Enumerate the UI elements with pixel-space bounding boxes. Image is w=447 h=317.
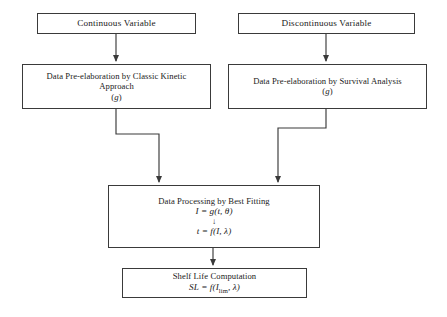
node-classic-kinetic-approach-line1: Data Pre-elaboration by Classic Kinetic [47, 71, 187, 81]
node-continuous-variable-label: Continuous Variable [77, 18, 156, 29]
node-survival-analysis-line1: Data Pre-elaboration by Survival Analysi… [253, 76, 402, 86]
node-discontinuous-variable: Discontinuous Variable [238, 13, 415, 34]
node-discontinuous-variable-label: Discontinuous Variable [282, 18, 372, 29]
node-shelf-life-title: Shelf Life Computation [173, 271, 257, 281]
node-data-processing-formula-1: I = g(t, θ) [195, 206, 232, 217]
node-shelf-life-formula: SL = f(Ilim, λ) [189, 282, 240, 295]
node-survival-analysis: Data Pre-elaboration by Survival Analysi… [228, 64, 427, 109]
node-continuous-variable: Continuous Variable [37, 13, 196, 34]
node-classic-kinetic-approach-variable: (g) [111, 92, 121, 103]
node-classic-kinetic-approach: Data Pre-elaboration by Classic Kinetic … [22, 64, 211, 109]
node-shelf-life-computation: Shelf Life Computation SL = f(Ilim, λ) [122, 268, 307, 298]
node-classic-kinetic-approach-line2: Approach [99, 81, 134, 91]
down-arrow-icon: ↓ [212, 218, 216, 226]
node-data-processing-formula-2: t = f(I, λ) [197, 226, 232, 237]
node-data-processing-title: Data Processing by Best Fitting [158, 196, 270, 206]
node-data-processing-best-fitting: Data Processing by Best Fitting I = g(t,… [108, 185, 320, 248]
node-survival-analysis-variable: (g) [322, 86, 332, 97]
edge-kinetic-to-processing [116, 109, 159, 182]
edge-survival-to-processing [278, 109, 326, 182]
flowchart-diagram: Continuous Variable Discontinuous Variab… [0, 0, 447, 317]
